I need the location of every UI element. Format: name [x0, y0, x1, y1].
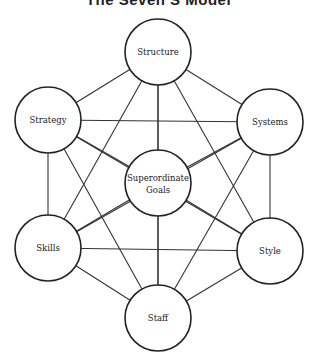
node-label: Systems [252, 117, 288, 127]
node-label: Staff [148, 313, 169, 323]
seven-s-diagram: StructureStrategySystemsSuperordinateGoa… [0, 0, 317, 364]
node-systems: Systems [237, 89, 303, 155]
node-label: Structure [137, 47, 179, 57]
node-label: Strategy [29, 115, 66, 125]
node-circle [125, 150, 191, 216]
node-skills: Skills [15, 215, 81, 281]
node-label: Style [259, 246, 281, 256]
node-label: Goals [146, 185, 170, 195]
node-strategy: Strategy [15, 87, 81, 153]
node-staff: Staff [125, 285, 191, 351]
node-label: Superordinate [127, 173, 189, 183]
nodes: StructureStrategySystemsSuperordinateGoa… [15, 19, 303, 351]
node-label: Skills [36, 243, 60, 253]
node-superordinate-goals: SuperordinateGoals [125, 150, 191, 216]
node-style: Style [237, 218, 303, 284]
node-structure: Structure [125, 19, 191, 85]
